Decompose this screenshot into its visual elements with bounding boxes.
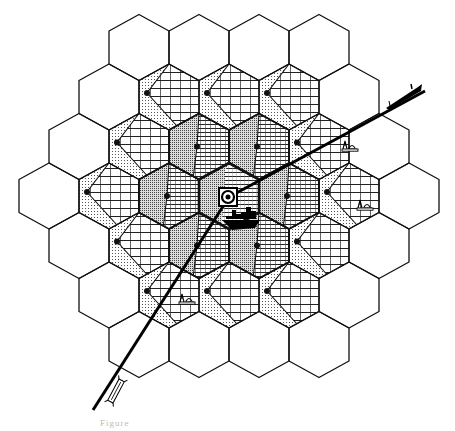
hex-cell: [19, 163, 79, 229]
cell-node-dot: [164, 193, 170, 199]
cell-node-dot: [114, 140, 120, 146]
cell-node-dot: [294, 140, 300, 146]
cell-node-dot: [324, 189, 330, 195]
cell-node-dot: [204, 288, 210, 294]
cell-node-dot: [264, 288, 270, 294]
cell-node-dot: [204, 90, 210, 96]
cell-node-dot: [194, 144, 200, 150]
hex-cell: [379, 163, 439, 229]
cell-node-dot: [264, 90, 270, 96]
cell-node-dot: [254, 243, 260, 249]
cell-node-dot: [254, 144, 260, 150]
cell-node-dot: [294, 239, 300, 245]
cell-node-dot: [284, 193, 290, 199]
cell-node-dot: [84, 189, 90, 195]
target-icon: [219, 188, 237, 206]
figure-caption: Figure: [100, 418, 130, 428]
cell-node-dot: [114, 239, 120, 245]
cell-node-dot: [144, 288, 150, 294]
cell-node-dot: [144, 90, 150, 96]
barge-icon: [105, 375, 128, 406]
